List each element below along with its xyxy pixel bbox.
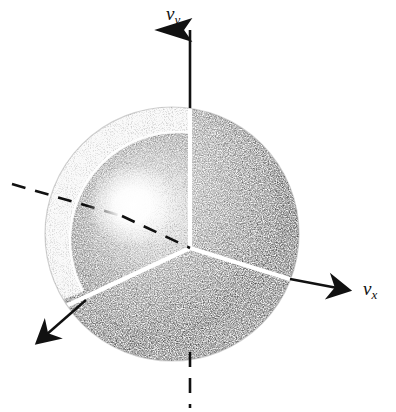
axis-label-vx-subscript: x (371, 287, 377, 302)
velocity-sphere-figure: vy vx (0, 0, 396, 412)
axis-label-vy-subscript: y (174, 12, 180, 27)
sphere-solid-body (45, 107, 299, 361)
velocity-sphere-diagram (0, 0, 396, 412)
velocity-sphere (45, 106, 299, 361)
axis-label-vy: vy (166, 4, 180, 26)
axis-label-vx: vx (363, 279, 377, 301)
